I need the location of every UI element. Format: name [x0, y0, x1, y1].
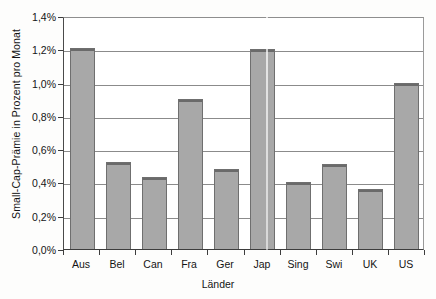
x-axis-tick-label: Jap: [244, 258, 280, 270]
y-axis-tick-label: 0,0%: [8, 245, 56, 255]
bar-fra: [178, 99, 203, 249]
bar-us: [394, 83, 419, 249]
x-axis-tick-mark: [424, 250, 425, 255]
y-axis-tick-label: 0,4%: [8, 178, 56, 188]
y-axis-tick-label: 0,6%: [8, 145, 56, 155]
gridline: [64, 85, 423, 86]
x-axis-tick-label: Ger: [207, 258, 243, 270]
bar-ger: [214, 169, 239, 249]
x-axis-tick-mark: [280, 250, 281, 255]
x-axis-tick-label: Aus: [63, 258, 99, 270]
x-axis-tick-mark: [352, 250, 353, 255]
bar-bel: [106, 162, 131, 249]
x-axis-tick-mark: [388, 250, 389, 255]
y-axis-title: Small-Cap-Prämie in Prozent pro Monat: [10, 4, 22, 244]
x-axis-tick-mark: [63, 250, 64, 255]
gridline: [64, 51, 423, 52]
x-axis-tick-label: US: [388, 258, 424, 270]
gridline: [64, 151, 423, 152]
x-axis-tick-label: Can: [135, 258, 171, 270]
gridline: [64, 118, 423, 119]
x-axis-tick-mark: [135, 250, 136, 255]
plot-area: [63, 17, 424, 250]
x-axis-title: Länder: [0, 278, 436, 290]
x-axis-tick-label: Sing: [280, 258, 316, 270]
bar-aus: [70, 48, 95, 249]
y-axis-tick-label: 1,2%: [8, 45, 56, 55]
x-axis-tick-mark: [99, 250, 100, 255]
y-axis-tick-label: 1,0%: [8, 79, 56, 89]
bar-sing: [286, 182, 311, 249]
x-axis-tick-label: Fra: [171, 258, 207, 270]
x-axis-tick-mark: [316, 250, 317, 255]
x-axis-tick-mark: [244, 250, 245, 255]
bar-jap: [250, 49, 275, 249]
bar-can: [142, 177, 167, 249]
x-axis-tick-label: Swi: [316, 258, 352, 270]
x-axis-tick-label: Bel: [99, 258, 135, 270]
bar-uk: [358, 189, 383, 249]
y-axis-tick-label: 0,2%: [8, 212, 56, 222]
bar-chart-figure: Small-Cap-Prämie in Prozent pro Monat 0,…: [0, 0, 436, 299]
x-axis-tick-mark: [171, 250, 172, 255]
bar-swi: [322, 164, 347, 249]
x-axis-tick-label: UK: [352, 258, 388, 270]
y-axis-tick-label: 1,4%: [8, 12, 56, 22]
y-axis-tick-label: 0,8%: [8, 112, 56, 122]
x-axis-tick-mark: [207, 250, 208, 255]
